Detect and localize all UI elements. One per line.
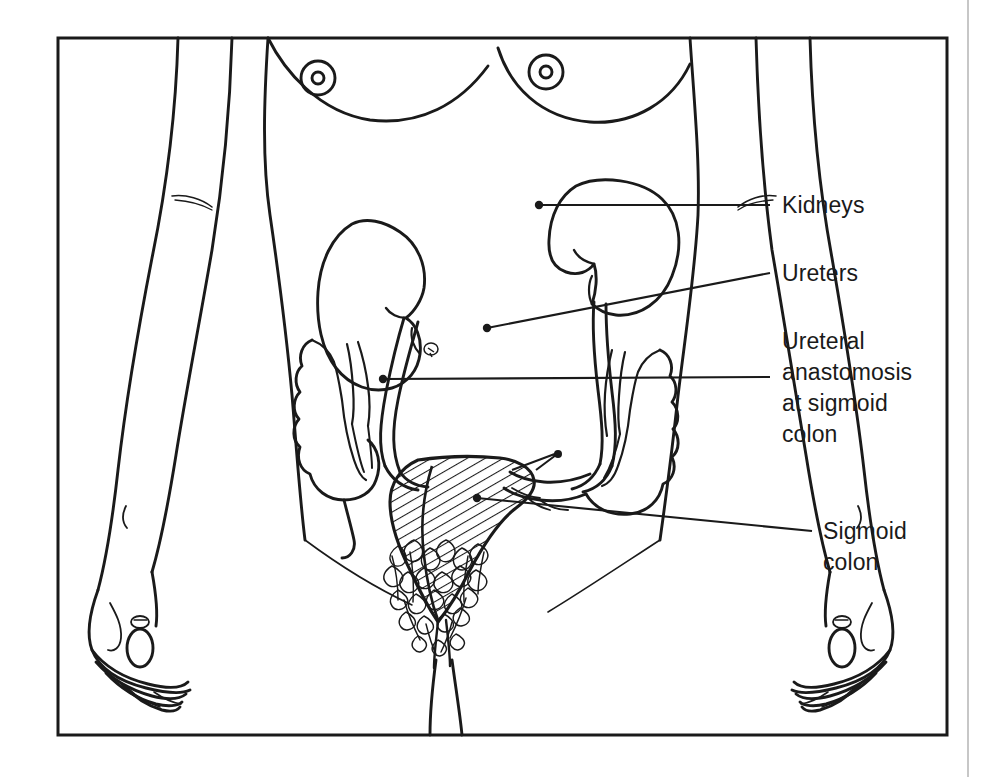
- label-ureters-line-0: Ureters: [782, 260, 858, 286]
- label-ureters: Ureters: [782, 260, 858, 286]
- label-anastomosis-line-3: colon: [782, 421, 837, 447]
- leader-dot-sigmoid-colon: [473, 494, 481, 502]
- label-kidneys-line-0: Kidneys: [782, 192, 865, 218]
- label-anastomosis-line-1: anastomosis: [782, 359, 912, 385]
- leader-dot-ureters: [483, 324, 491, 332]
- label-kidneys: Kidneys: [782, 192, 865, 218]
- anatomical-diagram: Kidneys Ureters Ureteral anastomosis at …: [0, 0, 990, 777]
- label-sigmoid-line-1: colon: [823, 549, 878, 575]
- label-anastomosis-line-0: Ureteral: [782, 328, 865, 354]
- label-anastomosis-line-2: at sigmoid: [782, 390, 888, 416]
- leader-dot-kidneys: [535, 201, 543, 209]
- figure-root: Kidneys Ureters Ureteral anastomosis at …: [0, 0, 990, 777]
- leader-dot-ureteral-anastomosis: [379, 375, 387, 383]
- label-sigmoid-line-0: Sigmoid: [823, 518, 907, 544]
- anastomosis-pointer-dot: [554, 450, 562, 458]
